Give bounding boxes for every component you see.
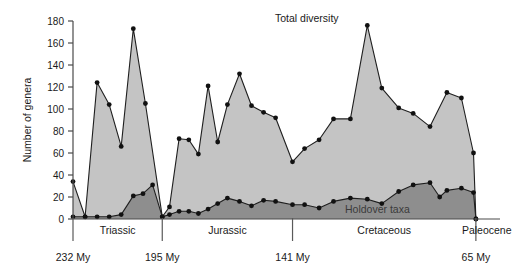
data-point [331,117,336,122]
data-point [317,206,322,211]
y-tick-label: 40 [53,170,65,181]
data-point [131,26,136,31]
data-point [331,199,336,204]
data-point [471,190,476,195]
data-point [237,71,242,76]
data-point [167,205,172,210]
data-point [119,212,124,217]
x-tick-label: 232 My [56,251,91,263]
data-point [290,202,295,207]
y-tick-label: 180 [47,16,64,27]
data-point [290,159,295,164]
x-tick-label: 141 My [275,251,310,263]
data-point [471,151,476,156]
holdover-taxa-annotation: Holdover taxa [345,203,410,215]
y-tick-label: 140 [47,60,64,71]
data-point [302,146,307,151]
data-point [131,194,136,199]
data-point [317,137,322,142]
data-point [141,191,146,196]
data-point [365,23,370,28]
data-point [225,102,230,107]
period-label-jurassic: Jurassic [208,224,247,236]
chart-svg: 020406080100120140160180 232 My195 My141… [0,0,531,269]
data-point [428,180,433,185]
y-tick-label: 100 [47,104,64,115]
data-point [445,188,450,193]
data-point [143,101,148,106]
y-tick-label: 0 [58,214,64,225]
data-point [225,196,230,201]
period-label-paleocene: Paleocene [462,224,512,236]
data-point [396,106,401,111]
data-point [365,197,370,202]
data-point [379,86,384,91]
data-point [249,103,254,108]
data-point [445,90,450,95]
data-point [119,144,124,149]
data-point [273,199,278,204]
data-point [206,84,211,89]
data-point [249,203,254,208]
data-point [196,211,201,216]
data-point [459,96,464,101]
data-point [396,189,401,194]
y-tick-label: 120 [47,82,64,93]
data-point [150,183,155,188]
data-point [302,202,307,207]
data-point [411,183,416,188]
total-diversity-annotation: Total diversity [275,12,339,24]
data-point [177,209,182,214]
period-label-triassic: Triassic [100,224,136,236]
data-point [196,152,201,157]
data-point [273,115,278,120]
data-point [95,80,100,85]
data-point [437,195,442,200]
data-point [186,137,191,142]
y-tick-label: 60 [53,148,65,159]
data-point [215,201,220,206]
data-point [348,117,353,122]
y-tick-label: 160 [47,38,64,49]
x-tick-label: 65 My [462,251,491,263]
data-point [459,186,464,191]
x-tick-label: 195 My [145,251,180,263]
data-point [261,110,266,115]
data-point [261,198,266,203]
data-point [177,136,182,141]
data-point [206,207,211,212]
data-point [411,111,416,116]
y-axis: 020406080100120140160180 [47,16,73,225]
chart-figure: 020406080100120140160180 232 My195 My141… [0,0,531,269]
y-axis-title: Number of genera [21,78,33,163]
period-name-labels: TriassicJurassicCretaceousPaleocene [100,224,512,236]
data-point [107,102,112,107]
y-tick-label: 20 [53,192,65,203]
x-axis-tick-labels: 232 My195 My141 My65 My [56,251,491,263]
period-label-cretaceous: Cretaceous [357,224,411,236]
data-point [428,124,433,129]
data-point [348,196,353,201]
data-point [215,140,220,145]
data-point [167,212,172,217]
y-tick-label: 80 [53,126,65,137]
data-point [186,209,191,214]
data-point [237,199,242,204]
